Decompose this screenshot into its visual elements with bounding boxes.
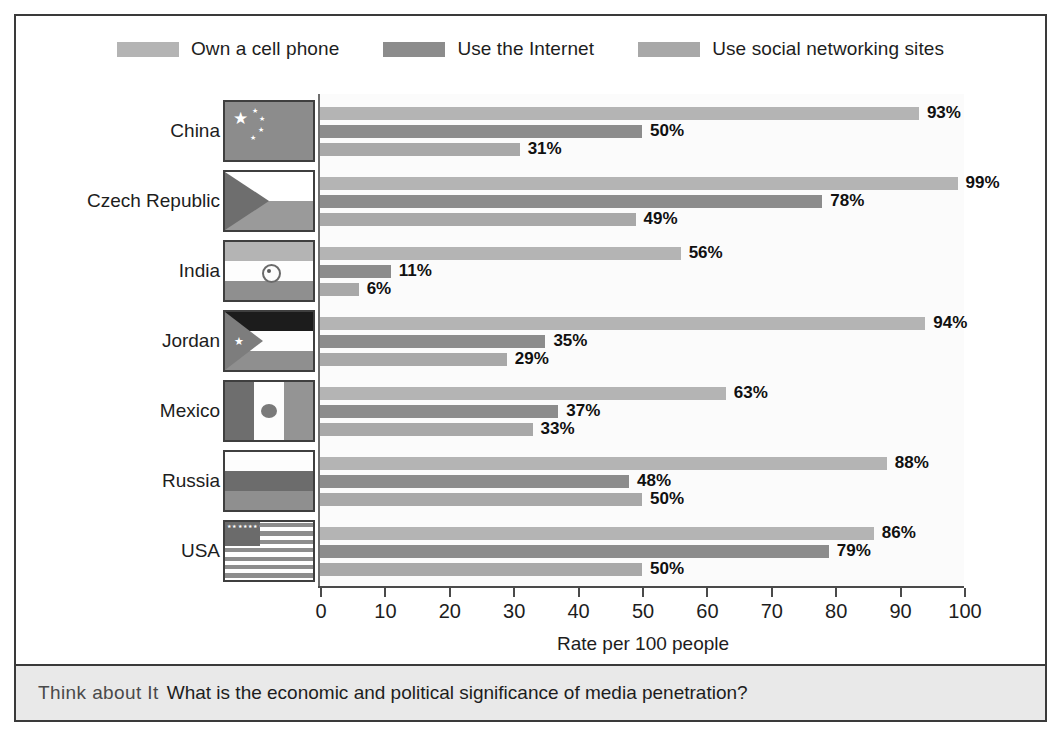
bar-value-label: 94% (925, 313, 967, 333)
x-tick-label: 60 (696, 600, 718, 623)
bar-value-label: 63% (726, 383, 768, 403)
legend-swatch-internet (383, 42, 445, 57)
country-label-jordan: Jordan (162, 330, 220, 352)
x-axis-label: Rate per 100 people (320, 633, 966, 655)
country-label-russia: Russia (162, 470, 220, 492)
x-tick-label: 0 (315, 600, 326, 623)
x-tick-mark (771, 588, 773, 597)
bar-value-label: 37% (558, 401, 600, 421)
x-tick-mark (900, 588, 902, 597)
x-tick-mark (320, 588, 322, 597)
bar-group: 94%35%29% (320, 311, 1020, 371)
x-tick-mark (513, 588, 515, 597)
bar-own-a-cell-phone: 63% (320, 387, 796, 400)
footer-text: Think about ItWhat is the economic and p… (16, 682, 748, 704)
bar-fill (320, 195, 822, 208)
x-tick-label: 40 (567, 600, 589, 623)
bar-value-label: 78% (822, 191, 864, 211)
bar-fill (320, 405, 558, 418)
bar-value-label: 88% (887, 453, 929, 473)
legend-label-internet: Use the Internet (457, 38, 594, 60)
bar-value-label: 33% (533, 419, 575, 439)
flag-russia-icon (223, 450, 315, 512)
country-row: India56%11%6% (16, 236, 1045, 306)
bar-use-the-internet: 11% (320, 265, 461, 278)
flag-usa-icon: ★★★★★★★★★★★★★★★★★★★★★★★★ (223, 520, 315, 582)
bar-fill (320, 423, 533, 436)
bar-fill (320, 125, 642, 138)
legend-swatch-cell-phone (117, 42, 179, 57)
bar-value-label: 49% (636, 209, 678, 229)
legend-item-internet: Use the Internet (383, 38, 594, 60)
bar-value-label: 50% (642, 489, 684, 509)
bar-fill (320, 247, 681, 260)
flag-czech-icon (223, 170, 315, 232)
bar-own-a-cell-phone: 86% (320, 527, 944, 540)
x-axis-ticks: 0102030405060708090100 (16, 588, 1045, 628)
bar-group: 93%50%31% (320, 101, 1020, 161)
bar-value-label: 11% (391, 261, 432, 281)
chart-legend: Own a cell phone Use the Internet Use so… (16, 38, 1045, 60)
flag-china-icon: ★★★★★ (223, 100, 315, 162)
country-row: Czech Republic99%78%49% (16, 166, 1045, 236)
bar-fill (320, 353, 507, 366)
bar-use-social-networking-sites: 50% (320, 563, 712, 576)
bar-value-label: 31% (520, 139, 562, 159)
bar-use-the-internet: 35% (320, 335, 615, 348)
bar-own-a-cell-phone: 88% (320, 457, 957, 470)
flag-india-icon (223, 240, 315, 302)
country-row: China★★★★★93%50%31% (16, 96, 1045, 166)
bar-use-the-internet: 78% (320, 195, 892, 208)
legend-item-cell-phone: Own a cell phone (117, 38, 339, 60)
bar-fill (320, 283, 359, 296)
legend-label-social: Use social networking sites (712, 38, 944, 60)
bar-group: 88%48%50% (320, 451, 1020, 511)
flag-mexico-icon (223, 380, 315, 442)
bar-group: 99%78%49% (320, 171, 1020, 231)
country-label-usa: USA (181, 540, 220, 562)
bar-fill (320, 475, 629, 488)
x-tick-label: 70 (761, 600, 783, 623)
bar-use-the-internet: 37% (320, 405, 628, 418)
bar-value-label: 93% (919, 103, 961, 123)
bar-value-label: 6% (359, 279, 392, 299)
bar-fill (320, 493, 642, 506)
x-tick-mark (384, 588, 386, 597)
bar-own-a-cell-phone: 99% (320, 177, 1028, 190)
country-label-mexico: Mexico (160, 400, 220, 422)
legend-item-social: Use social networking sites (638, 38, 944, 60)
country-row: USA★★★★★★★★★★★★★★★★★★★★★★★★86%79%50% (16, 516, 1045, 586)
bar-use-the-internet: 79% (320, 545, 899, 558)
bar-fill (320, 177, 958, 190)
bar-value-label: 56% (681, 243, 723, 263)
x-tick-label: 100 (948, 600, 981, 623)
bar-use-social-networking-sites: 31% (320, 143, 590, 156)
bar-value-label: 48% (629, 471, 671, 491)
x-tick-mark (449, 588, 451, 597)
x-tick-label: 10 (374, 600, 396, 623)
bar-value-label: 50% (642, 121, 684, 141)
bar-own-a-cell-phone: 94% (320, 317, 995, 330)
bar-fill (320, 457, 887, 470)
bar-use-social-networking-sites: 29% (320, 353, 577, 366)
bar-use-social-networking-sites: 49% (320, 213, 706, 226)
bar-value-label: 99% (958, 173, 1000, 193)
x-tick-mark (964, 588, 966, 597)
x-tick-mark (706, 588, 708, 597)
bar-own-a-cell-phone: 56% (320, 247, 751, 260)
x-tick-label: 20 (439, 600, 461, 623)
x-tick-label: 80 (825, 600, 847, 623)
bar-group: 63%37%33% (320, 381, 1020, 441)
bar-fill (320, 317, 925, 330)
bar-use-social-networking-sites: 6% (320, 283, 429, 296)
x-tick-mark (642, 588, 644, 597)
bar-use-social-networking-sites: 33% (320, 423, 603, 436)
bar-fill (320, 143, 520, 156)
bar-fill (320, 563, 642, 576)
bar-fill (320, 387, 726, 400)
footer-question: What is the economic and political signi… (167, 682, 748, 703)
bar-fill (320, 335, 545, 348)
bar-group: 56%11%6% (320, 241, 1020, 301)
bar-fill (320, 107, 919, 120)
x-tick-label: 50 (632, 600, 654, 623)
